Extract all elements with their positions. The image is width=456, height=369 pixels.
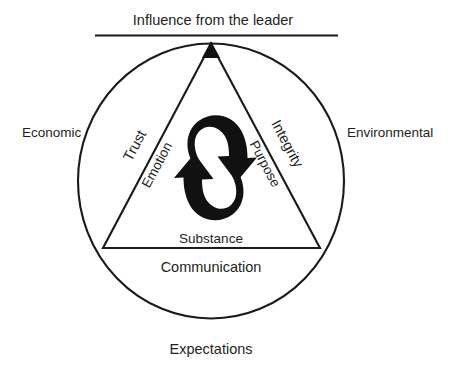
outer-circle bbox=[78, 44, 344, 319]
label-expectations: Expectations bbox=[169, 341, 252, 357]
label-substance: Substance bbox=[179, 231, 243, 246]
label-communication: Communication bbox=[161, 259, 262, 275]
label-environmental: Environmental bbox=[347, 125, 433, 140]
label-economic: Economic bbox=[22, 125, 82, 140]
label-trust: Trust bbox=[120, 128, 149, 164]
label-emotion: Emotion bbox=[139, 139, 175, 190]
diagram-root: Trust Emotion Integrity Purpose Influenc… bbox=[0, 0, 456, 369]
label-purpose: Purpose bbox=[247, 138, 284, 189]
leadership-model-figure: Trust Emotion Integrity Purpose Influenc… bbox=[0, 0, 456, 369]
cycle-arrows-group bbox=[174, 115, 257, 220]
label-influence-from-the-leader: Influence from the leader bbox=[133, 12, 294, 28]
